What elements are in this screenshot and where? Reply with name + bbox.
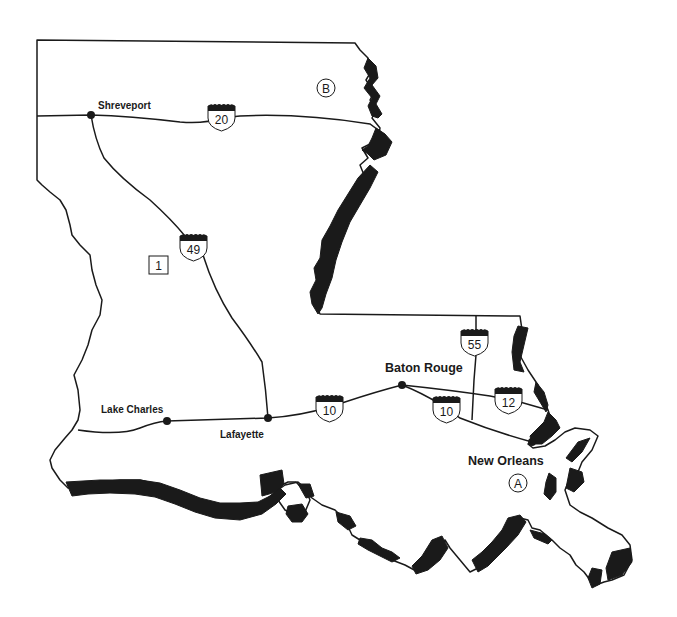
svg-text:12: 12: [502, 396, 516, 410]
city-label-lake-charles: Lake Charles: [101, 404, 164, 415]
louisiana-map: Shreveport Lake Charles Lafayette Baton …: [0, 0, 677, 617]
coast-shading-central-3: [298, 484, 314, 498]
svg-text:10: 10: [440, 405, 454, 419]
marker-1: 1: [149, 256, 168, 274]
marker-a: A: [509, 474, 527, 492]
coast-shading-southwest: [66, 480, 286, 520]
coast-shading-east-1: [566, 438, 590, 462]
marker-b: B: [317, 79, 335, 97]
city-label-baton-rouge: Baton Rouge: [385, 361, 463, 375]
river-shading-north: [364, 58, 382, 118]
coast-shading-east-3: [544, 473, 556, 500]
city-dot-lake-charles: [163, 417, 171, 425]
coast-shading-delta-west: [412, 536, 448, 574]
svg-text:A: A: [514, 477, 522, 491]
city-label-new-orleans: New Orleans: [468, 454, 544, 468]
interstate-shield-12: 12: [495, 387, 522, 414]
svg-text:1: 1: [155, 259, 162, 273]
road-i49: [91, 115, 268, 418]
city-label-shreveport: Shreveport: [98, 100, 151, 111]
interstate-shield-55: 55: [461, 329, 488, 356]
city-dot-baton-rouge: [398, 381, 406, 389]
interstate-shield-20: 20: [208, 104, 235, 131]
interstate-shield-49: 49: [180, 234, 207, 261]
svg-text:20: 20: [215, 113, 229, 127]
river-shading-long: [310, 165, 378, 314]
interstate-shield-10-west: 10: [316, 395, 343, 422]
coast-shading-central-2: [286, 504, 308, 522]
coast-shading-central-1: [336, 512, 356, 530]
svg-text:10: 10: [323, 404, 337, 418]
road-i12: [402, 385, 548, 410]
coast-shading-south-1: [530, 530, 552, 544]
svg-text:55: 55: [468, 338, 482, 352]
coast-shading-delta-bay: [358, 538, 400, 562]
coast-shading-east-2: [566, 468, 584, 492]
coast-shading-delta-mid: [472, 515, 526, 572]
interstate-shield-10-east: 10: [433, 396, 460, 423]
city-dot-shreveport: [87, 111, 95, 119]
svg-text:B: B: [322, 82, 330, 96]
city-dot-lafayette: [264, 414, 272, 422]
city-dot-new-orleans: [528, 438, 536, 446]
coast-shading-south-2: [606, 548, 632, 580]
svg-text:49: 49: [187, 243, 201, 257]
state-border: [37, 40, 632, 585]
coast-shading-south-3: [588, 568, 602, 588]
city-label-lafayette: Lafayette: [220, 429, 264, 440]
